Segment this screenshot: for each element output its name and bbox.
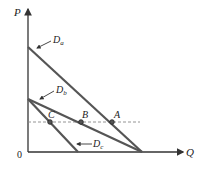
db-pointer-arrow xyxy=(40,91,54,99)
curve-dc xyxy=(28,99,78,152)
curve-da-label: Da xyxy=(52,34,64,47)
point-c xyxy=(48,120,53,125)
da-pointer-arrow xyxy=(37,41,51,48)
curve-dc-label: Dc xyxy=(92,138,104,151)
demand-curves-diagram: P Q 0 Da Db Dc A B C xyxy=(0,0,204,171)
point-b-label: B xyxy=(82,109,88,120)
curve-db-label: Db xyxy=(55,84,67,97)
y-axis-label: P xyxy=(13,6,21,18)
point-a-label: A xyxy=(113,109,121,120)
point-b xyxy=(79,120,84,125)
point-c-label: C xyxy=(48,109,55,120)
x-axis-label: Q xyxy=(186,146,194,158)
curve-da xyxy=(28,47,142,152)
origin-label: 0 xyxy=(17,149,22,160)
point-a xyxy=(110,120,115,125)
